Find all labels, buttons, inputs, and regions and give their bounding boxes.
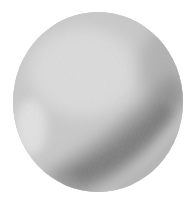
- image-canvas: [0, 0, 193, 200]
- watercolor-sphere: [13, 12, 183, 192]
- sphere-texture: [13, 12, 183, 192]
- sphere-shading: [13, 12, 183, 192]
